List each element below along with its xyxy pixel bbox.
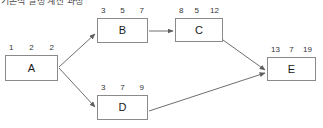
edge-a-to-d <box>59 68 95 107</box>
node-d-value-2: 9 <box>140 84 144 92</box>
node-c-value-0: 8 <box>179 7 183 15</box>
node-b-values: 3 5 7 <box>97 7 148 15</box>
node-d-value-1: 7 <box>120 84 124 92</box>
node-d[interactable]: D <box>97 95 148 120</box>
node-a[interactable]: A <box>5 55 58 81</box>
node-c-label: C <box>195 25 203 36</box>
node-a-values: 1 2 2 <box>5 44 58 52</box>
network-diagram-canvas: 기본적 일정 계산 과정 1 2 2 A 3 5 7 B 8 5 12 C <box>0 0 323 128</box>
node-b[interactable]: B <box>97 18 148 43</box>
node-e-value-2: 19 <box>303 46 312 54</box>
edge-a-to-b <box>59 34 95 67</box>
node-a-value-1: 2 <box>29 44 33 52</box>
page-title: 기본적 일정 계산 과정 <box>1 0 83 7</box>
node-b-value-2: 7 <box>140 7 144 15</box>
node-c-value-1: 5 <box>195 7 199 15</box>
node-d-values: 3 7 9 <box>97 84 148 92</box>
node-a-label: A <box>28 63 35 74</box>
edge-d-to-e <box>149 73 265 111</box>
node-e-values: 13 7 19 <box>267 46 316 54</box>
node-c-value-2: 12 <box>210 7 219 15</box>
node-a-value-2: 2 <box>50 44 54 52</box>
node-e[interactable]: E <box>267 57 316 81</box>
node-b-value-1: 5 <box>120 7 124 15</box>
node-c-values: 8 5 12 <box>175 7 223 15</box>
node-d-label: D <box>119 102 127 113</box>
node-e-value-1: 7 <box>289 46 293 54</box>
node-e-label: E <box>288 64 295 75</box>
node-d-value-0: 3 <box>101 84 105 92</box>
edge-c-to-e <box>223 40 265 70</box>
node-e-value-0: 13 <box>271 46 280 54</box>
node-b-value-0: 3 <box>101 7 105 15</box>
node-c[interactable]: C <box>175 18 223 42</box>
node-a-value-0: 1 <box>9 44 13 52</box>
node-b-label: B <box>119 25 126 36</box>
